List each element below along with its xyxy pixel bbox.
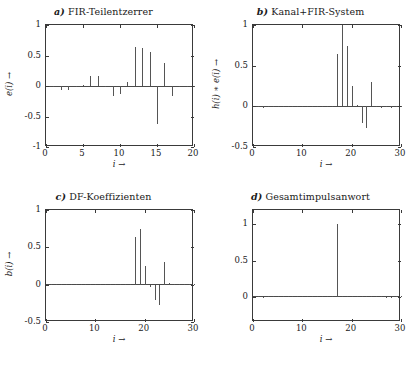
y-tickmark-a xyxy=(191,25,194,26)
stem-bar xyxy=(159,285,160,305)
plot-axes-a xyxy=(45,24,193,146)
stem-marker xyxy=(283,296,284,297)
y-tickmark-b xyxy=(398,25,401,26)
x-tickmark-d xyxy=(401,210,402,213)
y-axis-label-a: e(i) → xyxy=(4,23,14,145)
x-tickmark-c xyxy=(95,319,96,322)
stem-marker xyxy=(307,106,308,107)
panel-c-title: c) DF-Koeffizienten xyxy=(0,191,207,202)
stem-bar xyxy=(164,63,165,86)
x-tick-label: 0 xyxy=(249,323,254,333)
x-tickmark-a xyxy=(120,25,121,28)
stem-bar xyxy=(352,86,353,106)
stem-marker xyxy=(292,106,293,107)
stem-bar xyxy=(391,297,392,298)
stem-marker xyxy=(268,106,269,107)
x-tickmark-c xyxy=(194,210,195,213)
stem-marker xyxy=(307,296,308,297)
panel-d: d) Gesamtimpulsanwort 010203000.51i → xyxy=(207,185,414,375)
stem-bar xyxy=(150,52,151,86)
stem-marker xyxy=(76,284,77,285)
stem-marker xyxy=(120,284,121,285)
stem-marker xyxy=(297,296,298,297)
x-tickmark-d xyxy=(401,319,402,322)
y-tick-label: 0 xyxy=(13,80,41,90)
stem-marker xyxy=(332,296,333,297)
y-tickmark-c xyxy=(46,210,49,211)
stem-marker xyxy=(105,284,106,285)
x-tickmark-b xyxy=(352,144,353,147)
x-axis-label-d: i → xyxy=(252,334,400,344)
stem-bar xyxy=(357,105,358,107)
x-tick-label: 0 xyxy=(42,148,47,158)
y-tick-label: 1 xyxy=(220,218,248,228)
x-tickmark-b xyxy=(352,25,353,28)
x-tickmark-b xyxy=(302,25,303,28)
x-tick-label: 30 xyxy=(395,323,406,333)
x-tick-label: 20 xyxy=(188,148,199,158)
panel-d-title: d) Gesamtimpulsanwort xyxy=(207,191,414,202)
stem-marker xyxy=(312,106,313,107)
stem-marker xyxy=(51,284,52,285)
stem-marker xyxy=(322,106,323,107)
panel-a: a) FIR-Teilentzerrer 05101520-1-0.500.51… xyxy=(0,0,207,190)
y-tickmark-c xyxy=(46,247,49,248)
stem-bar xyxy=(145,266,146,285)
stem-marker xyxy=(342,296,343,297)
stem-bar xyxy=(140,229,141,284)
stem-marker xyxy=(130,284,131,285)
stem-marker xyxy=(283,106,284,107)
panel-c-label: c) xyxy=(56,191,66,202)
panel-c-title-text: DF-Koeffizienten xyxy=(69,191,151,202)
stem-bar xyxy=(391,106,392,108)
stem-marker xyxy=(273,296,274,297)
y-tickmark-a xyxy=(46,56,49,57)
stem-marker xyxy=(278,106,279,107)
x-tickmark-b xyxy=(401,25,402,28)
stem-bar xyxy=(127,82,128,86)
stem-marker xyxy=(292,296,293,297)
y-tick-label: 0 xyxy=(220,291,248,301)
panel-b-label: b) xyxy=(257,6,268,17)
y-tickmark-a xyxy=(191,117,194,118)
stem-marker xyxy=(297,106,298,107)
panel-a-plot: 05101520-1-0.500.51i →e(i) → xyxy=(45,24,193,146)
stem-bar xyxy=(83,85,84,86)
stem-bar xyxy=(381,106,382,108)
y-tickmark-a xyxy=(46,25,49,26)
stem-marker xyxy=(288,296,289,297)
x-tick-label: 10 xyxy=(89,323,100,333)
stem-marker xyxy=(312,296,313,297)
stem-bar xyxy=(169,283,170,284)
x-tickmark-a xyxy=(157,144,158,147)
plot-axes-c xyxy=(45,209,193,321)
panel-a-label: a) xyxy=(54,6,65,17)
y-tick-label: 0.5 xyxy=(13,241,41,251)
x-tick-label: 10 xyxy=(296,148,307,158)
stem-marker xyxy=(366,296,367,297)
x-tickmark-d xyxy=(302,210,303,213)
stem-bar xyxy=(263,106,264,108)
plot-axes-b xyxy=(252,24,400,146)
stem-marker xyxy=(401,296,402,297)
x-tickmark-b xyxy=(401,144,402,147)
x-tick-label: 0 xyxy=(249,148,254,158)
stem-marker xyxy=(273,106,274,107)
y-tickmark-c xyxy=(46,285,49,286)
stem-marker xyxy=(194,86,195,87)
x-axis-label-c: i → xyxy=(45,334,193,344)
stem-bar xyxy=(342,25,343,106)
stem-marker xyxy=(174,284,175,285)
stem-marker xyxy=(179,284,180,285)
stem-marker xyxy=(56,284,57,285)
stem-marker xyxy=(95,284,96,285)
x-tickmark-d xyxy=(352,210,353,213)
y-tickmark-b xyxy=(253,25,256,26)
stem-bar xyxy=(157,86,158,124)
stem-marker xyxy=(66,284,67,285)
stem-marker xyxy=(352,296,353,297)
y-tickmark-c xyxy=(191,247,194,248)
x-tick-label: 20 xyxy=(345,323,356,333)
stem-marker xyxy=(386,106,387,107)
stem-bar xyxy=(135,47,136,86)
